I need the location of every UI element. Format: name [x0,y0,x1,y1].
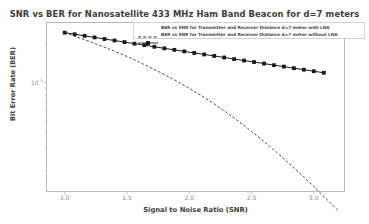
data-point-marker [202,53,206,57]
data-point-marker [73,32,77,36]
data-point-marker [192,51,196,55]
legend-label-without-lna: BER vs SNR for Transmitter and Receiver … [161,32,337,37]
chart-legend: BER vs SNR for Transmitter and Receiver … [133,22,365,39]
data-point-marker [312,69,316,73]
data-point-marker [232,57,236,61]
data-point-marker [103,37,107,41]
data-point-marker [322,71,326,75]
data-point-marker [63,31,67,35]
data-point-marker [123,40,127,44]
data-point-marker [292,66,296,70]
series-line-0 [65,33,339,212]
chart-figure: SNR vs BER for Nanosatellite 433 MHz Ham… [0,0,369,224]
data-point-marker [212,54,216,58]
data-point-marker [172,48,176,52]
data-point-marker [302,68,306,72]
y-axis-label: Bit Error Rate (BER) [9,9,17,159]
data-point-marker [93,36,97,40]
solid-marker-line-key [137,31,159,37]
data-point-marker [242,59,246,63]
x-tick-label: 1.5 [122,194,132,201]
x-tick-label: 2.5 [247,194,257,201]
x-tick-label: 3.0 [309,194,319,201]
data-point-marker [83,34,87,38]
legend-item-with-lna: BER vs SNR for Transmitter and Receiver … [137,25,361,32]
data-point-marker [113,39,117,43]
data-point-marker [133,42,137,46]
data-point-marker [252,60,256,64]
x-axis-label: Signal to Noise Ratio (SNR) [46,206,345,214]
data-point-marker [182,49,186,53]
legend-item-without-lna: BER vs SNR for Transmitter and Receiver … [137,31,361,38]
y-tick-label: 10-1 [24,78,43,86]
data-point-marker [272,63,276,67]
x-tick-label: 2.0 [184,194,194,201]
legend-label-with-lna: BER vs SNR for Transmitter and Receiver … [161,25,330,30]
data-point-marker [282,65,286,69]
data-point-marker [222,56,226,60]
data-point-marker [162,46,166,50]
x-tick-label: 1.0 [60,194,70,201]
data-point-marker [262,62,266,66]
dashed-line-key [137,25,159,31]
